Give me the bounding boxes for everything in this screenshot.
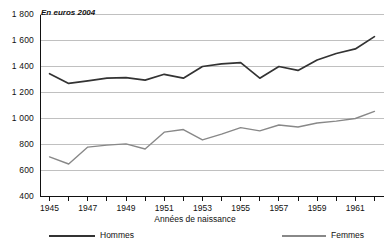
y-tick-1400: 1 400 xyxy=(0,61,34,71)
x-tick-1945: 1945 xyxy=(33,203,67,213)
x-tick-1951: 1951 xyxy=(147,203,181,213)
x-axis-title: Années de naissance xyxy=(154,214,235,224)
series-line-hommes xyxy=(50,37,375,84)
y-tick-1200: 1 200 xyxy=(0,87,34,97)
y-tick-1800: 1 800 xyxy=(0,9,34,19)
x-tick-1957: 1957 xyxy=(262,203,296,213)
x-tick-1949: 1949 xyxy=(109,203,143,213)
y-tick-1600: 1 600 xyxy=(0,35,34,45)
legend-swatch-hommes xyxy=(49,235,95,237)
chart-unit-note: En euros 2004 xyxy=(41,8,95,17)
legend-label-femmes: Femmes xyxy=(331,230,364,240)
y-tick-400: 400 xyxy=(0,191,34,201)
x-tick-1961: 1961 xyxy=(338,203,372,213)
y-tick-800: 800 xyxy=(0,139,34,149)
x-tick-1947: 1947 xyxy=(71,203,105,213)
x-tick-1955: 1955 xyxy=(224,203,258,213)
series-line-femmes xyxy=(50,111,375,164)
chart-figure: En euros 2004 4006008001 0001 2001 4001 … xyxy=(0,0,387,249)
y-tick-1000: 1 000 xyxy=(0,113,34,123)
x-tick-1953: 1953 xyxy=(185,203,219,213)
legend-label-hommes: Hommes xyxy=(100,230,134,240)
legend-swatch-femmes xyxy=(282,235,326,237)
y-tick-600: 600 xyxy=(0,165,34,175)
x-tick-1959: 1959 xyxy=(300,203,334,213)
